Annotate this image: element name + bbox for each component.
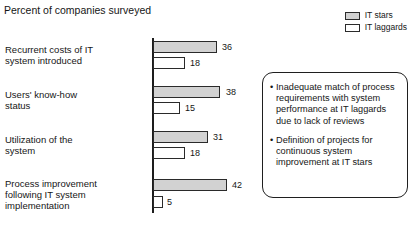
bar-it-laggards-process-improvement <box>153 196 163 208</box>
bullet-dot-icon: • <box>267 82 276 127</box>
bar-it-stars-process-improvement <box>153 179 227 191</box>
bar-value-it-stars-users-knowhow: 38 <box>226 87 236 97</box>
plot-area: Recurrent costs of IT system introduced … <box>0 0 260 229</box>
bar-value-it-stars-process-improvement: 42 <box>232 180 242 190</box>
legend-swatch-it-stars-icon <box>345 12 360 20</box>
chart-legend: IT stars IT laggards <box>345 11 407 32</box>
bar-value-it-stars-utilization: 31 <box>213 132 223 142</box>
bar-it-stars-utilization <box>153 131 208 143</box>
insights-callout-box: • Inadequate match of process requiremen… <box>262 72 408 198</box>
bar-value-it-laggards-process-improvement: 5 <box>167 197 172 207</box>
bar-value-it-stars-recurrent-costs: 36 <box>222 42 232 52</box>
bullet-dot-icon: • <box>267 135 276 169</box>
bar-value-it-laggards-users-knowhow: 15 <box>185 103 195 113</box>
callout-bullet-1: • Inadequate match of process requiremen… <box>267 82 400 127</box>
legend-swatch-it-laggards-icon <box>345 24 360 32</box>
legend-label-it-stars: IT stars <box>365 11 393 20</box>
bar-it-stars-recurrent-costs <box>153 41 217 53</box>
bar-it-laggards-recurrent-costs <box>153 57 185 69</box>
bar-value-it-laggards-recurrent-costs: 18 <box>190 58 200 68</box>
bar-value-it-laggards-utilization: 18 <box>190 148 200 158</box>
callout-bullet-2-text: Definition of projects for continuous sy… <box>276 135 400 169</box>
callout-bullet-2: • Definition of projects for continuous … <box>267 135 400 169</box>
bar-it-laggards-utilization <box>153 147 185 159</box>
legend-item-it-stars: IT stars <box>345 11 407 20</box>
bar-it-stars-users-knowhow <box>153 86 220 98</box>
callout-bullet-1-text: Inadequate match of process requirements… <box>276 82 400 127</box>
bars-layer: 36 18 38 15 31 18 42 5 <box>0 0 260 229</box>
legend-item-it-laggards: IT laggards <box>345 23 407 32</box>
chart-figure: Percent of companies surveyed IT stars I… <box>0 0 413 229</box>
legend-label-it-laggards: IT laggards <box>365 23 407 32</box>
bar-it-laggards-users-knowhow <box>153 102 180 114</box>
